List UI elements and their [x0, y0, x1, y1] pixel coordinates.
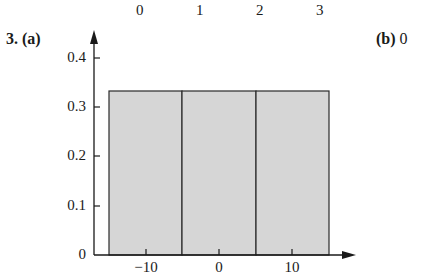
y-tick-label-0.3: 0.3: [46, 98, 86, 115]
y-tick-label-0.1: 0.1: [46, 197, 86, 214]
y-tick-label-0.2: 0.2: [46, 147, 86, 164]
x-tick-label-10: 10: [272, 259, 312, 274]
y-tick-label-0: 0: [46, 246, 86, 263]
histogram-chart: [0, 0, 438, 274]
bar-0: [182, 91, 256, 255]
y-tick-label-0.4: 0.4: [46, 49, 86, 66]
x-tick-label-neg10: −10: [126, 259, 166, 274]
y-axis-arrow-icon: [90, 30, 98, 44]
x-axis-arrow-icon: [342, 251, 356, 259]
bar-10: [256, 91, 329, 255]
x-tick-label-0: 0: [199, 259, 239, 274]
bar-neg10: [109, 91, 182, 255]
